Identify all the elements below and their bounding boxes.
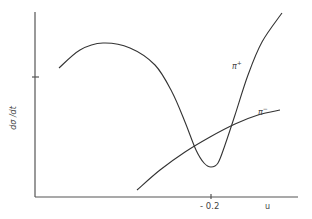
pi-minus-curve: [137, 110, 280, 190]
pi-plus-sup: +: [237, 59, 242, 66]
y-axis-label: dσ /dt: [10, 106, 18, 130]
pi-plus-curve: [59, 13, 282, 167]
pi-minus-label: π−: [258, 106, 268, 117]
pi-plus-label: π+: [232, 60, 242, 71]
x-tick-label: - 0.2: [200, 202, 219, 211]
x-axis-label: u: [265, 203, 270, 211]
pi-minus-sup: −: [263, 105, 268, 112]
